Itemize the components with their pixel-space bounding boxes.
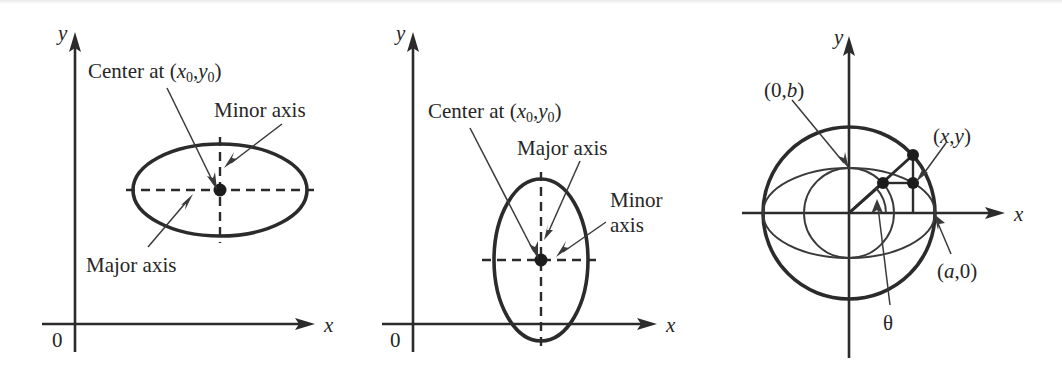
point-b-leader-line <box>792 100 844 163</box>
major-axis-leader-line <box>548 161 580 233</box>
major-axis-label: Major axis <box>86 253 176 277</box>
panel-horizontal-ellipse: y x 0 Center at (x0,y0) Minor axi <box>0 0 354 373</box>
x-axis-label: x <box>665 313 676 337</box>
minor-axis-label: Minor axis <box>214 98 306 122</box>
minor-axis-leader-arrowhead <box>224 152 237 168</box>
point-a-leader-line <box>937 221 951 254</box>
point-xy-label: (x,y) <box>933 124 971 148</box>
panel-parametric-construction: y x <box>708 0 1062 373</box>
major-axis-leader-line <box>148 200 188 247</box>
point-b-leader-arrowhead <box>838 152 849 169</box>
origin-label: 0 <box>52 328 63 352</box>
x-axis-label: x <box>323 313 334 337</box>
y-axis-label: y <box>832 25 844 49</box>
point-on-circle-a-dot <box>907 149 919 161</box>
major-axis-label: Major axis <box>517 136 607 160</box>
point-on-ellipse-dot <box>907 177 919 189</box>
ellipse-figure: y x 0 Center at (x0,y0) Minor axi <box>0 0 1062 373</box>
point-on-circle-b-dot <box>877 177 889 189</box>
origin-label: 0 <box>390 328 401 352</box>
center-label: Center at (x0,y0) <box>428 99 562 125</box>
y-axis-label: y <box>394 21 406 45</box>
x-axis-label: x <box>1013 202 1024 226</box>
panel-vertical-ellipse: y x 0 Center at (x0,y0) Major axi <box>354 0 708 373</box>
point-a-label: (a,0) <box>937 259 977 283</box>
minor-axis-label-line2: axis <box>610 213 644 237</box>
center-label: Center at (x0,y0) <box>88 59 222 85</box>
center-leader-arrowhead <box>207 172 217 190</box>
minor-axis-leader-arrowhead <box>556 241 569 257</box>
point-b-label: (0,b) <box>764 78 804 102</box>
major-axis-leader-arrowhead <box>181 194 193 210</box>
theta-label: θ <box>883 311 893 335</box>
center-leader-line <box>167 88 214 184</box>
minor-axis-label-line1: Minor <box>610 188 663 212</box>
y-axis-label: y <box>56 21 68 45</box>
